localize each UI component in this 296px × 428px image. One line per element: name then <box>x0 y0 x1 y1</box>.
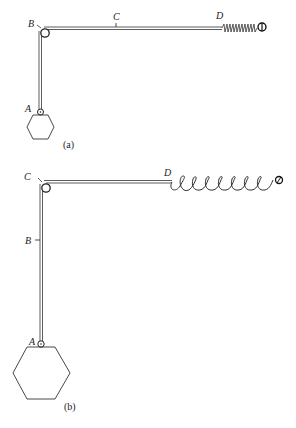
label-a: A <box>24 103 32 114</box>
spring-icon <box>222 24 257 32</box>
pulley-icon <box>41 29 49 37</box>
horizontal-string-b <box>44 181 172 184</box>
spring-icon <box>171 176 273 191</box>
label-c: C <box>24 171 31 182</box>
label-b: B <box>28 18 34 29</box>
caption-b: (b) <box>64 401 76 413</box>
pulley-icon <box>42 184 50 192</box>
hexagon-mass <box>27 115 54 139</box>
anchor-bolt-icon <box>276 177 283 184</box>
label-b: B <box>25 235 31 246</box>
horizontal-string-a <box>44 27 222 30</box>
label-c: C <box>113 11 120 22</box>
vertical-string-b <box>40 184 43 341</box>
hexagon-mass <box>13 347 70 399</box>
label-d: D <box>215 10 224 21</box>
label-a: A <box>28 336 36 347</box>
caption-a: (a) <box>63 139 74 151</box>
figure-a: B C D A (a) <box>24 10 266 151</box>
diagram-canvas: B C D A (a) <box>0 0 296 428</box>
figure-b: C B D A (b) <box>13 167 283 413</box>
vertical-string-a <box>39 31 42 110</box>
anchor-bolt-icon <box>258 23 266 31</box>
label-d: D <box>163 167 172 178</box>
